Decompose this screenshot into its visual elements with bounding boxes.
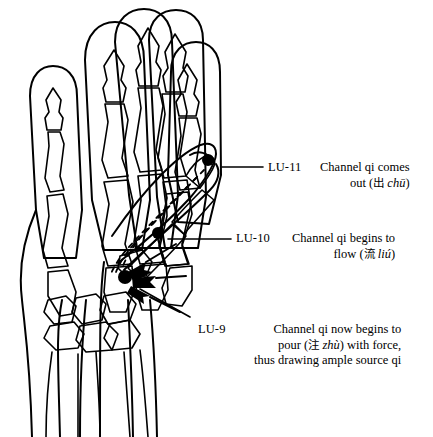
hand-skeleton-illustration [0, 0, 433, 437]
point-code-lu9: LU-9 [198, 322, 254, 337]
point-description-lu9: Channel qi now begins to pour (注 zhù) wi… [254, 322, 401, 369]
pinyin-text: liú [378, 247, 391, 261]
pinyin-text: zhù [322, 338, 339, 352]
desc-text: pour ( [278, 338, 308, 352]
cjk-character: 出 [373, 176, 384, 190]
point-description-lu10: Channel qi begins to flow (流 liú) [292, 231, 395, 262]
cjk-character: 注 [308, 338, 319, 352]
point-code-lu10: LU-10 [236, 231, 292, 246]
cjk-character: 流 [364, 247, 375, 261]
pinyin-text: chū [387, 176, 405, 190]
desc-tail: ) with force, [340, 338, 401, 352]
acupoint-figure: LU-11 Channel qi comes out (出 chū) LU-10… [0, 0, 433, 437]
desc-tail: ) [405, 176, 409, 190]
desc-line: Channel qi comes [320, 160, 410, 176]
point-code-lu11: LU-11 [268, 160, 320, 175]
desc-text: out ( [350, 176, 373, 190]
acupoint-marker-lu10 [152, 227, 164, 239]
annotation-lu9: LU-9 Channel qi now begins to pour (注 zh… [198, 322, 401, 369]
acupoint-marker-lu9 [118, 270, 132, 284]
thumb-bones [128, 156, 215, 282]
desc-line: flow (流 liú) [292, 247, 395, 263]
desc-text: flow ( [333, 247, 363, 261]
desc-line: thus drawing ample source qi [254, 353, 401, 369]
leader-line-lu9 [140, 289, 190, 317]
desc-line: Channel qi now begins to [254, 322, 401, 338]
desc-line: pour (注 zhù) with force, [254, 338, 401, 354]
acupoint-marker-lu11 [202, 154, 214, 166]
annotation-lu11: LU-11 Channel qi comes out (出 chū) [268, 160, 410, 191]
annotation-lu10: LU-10 Channel qi begins to flow (流 liú) [236, 231, 395, 262]
finger-outline-little [30, 66, 82, 258]
desc-line: out (出 chū) [320, 176, 410, 192]
desc-tail: ) [391, 247, 395, 261]
point-description-lu11: Channel qi comes out (出 chū) [320, 160, 410, 191]
desc-line: Channel qi begins to [292, 231, 395, 247]
